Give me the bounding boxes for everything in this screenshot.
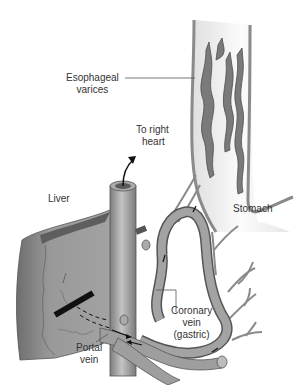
portal-hypertension-diagram <box>0 0 306 385</box>
label-stomach: Stomach <box>233 203 272 215</box>
label-esophageal-varices: Esophageal varices <box>66 72 119 96</box>
label-portal-vein: Portal vein <box>76 342 102 366</box>
label-coronary-vein: Coronary vein (gastric) <box>171 305 212 341</box>
label-liver: Liver <box>48 193 70 205</box>
label-to-right-heart: To right heart <box>136 124 169 148</box>
